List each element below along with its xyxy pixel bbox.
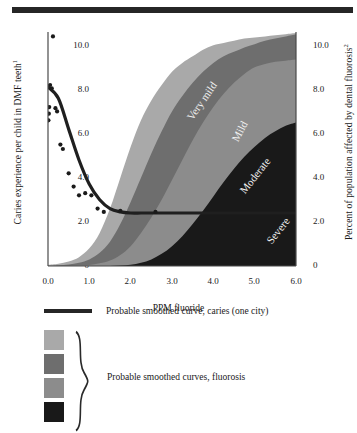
legend-swatch-severe xyxy=(44,402,64,422)
scatter-point xyxy=(118,209,122,213)
scatter-point xyxy=(96,207,100,211)
legend-label-fluorosis: Probable smoothed curves, fluorosis xyxy=(107,372,245,382)
legend-brace xyxy=(72,329,94,433)
caries-line-swatch xyxy=(44,309,92,313)
scatter-point xyxy=(51,34,55,38)
scatter-point xyxy=(77,193,81,197)
scatter-point xyxy=(58,142,62,146)
chart-area: Caries experience per child in DMF teeth… xyxy=(0,18,357,280)
scatter-point xyxy=(89,193,93,197)
legend-swatch-moderate xyxy=(44,378,64,398)
scatter-point xyxy=(55,109,59,113)
plot-canvas: Very mild Mild Moderate Severe xyxy=(0,18,357,280)
top-rule xyxy=(12,7,353,13)
legend-row-caries: Probable smoothed curve, caries (one cit… xyxy=(44,306,269,316)
scatter-point xyxy=(153,210,157,214)
scatter-point xyxy=(50,86,54,90)
scatter-point xyxy=(67,171,71,175)
scatter-point xyxy=(102,210,106,214)
legend-swatch-mild xyxy=(44,354,64,374)
scatter-point xyxy=(83,191,87,195)
legend-swatch-very-mild xyxy=(44,330,64,350)
scatter-point xyxy=(61,147,65,151)
legend-label-caries: Probable smoothed curve, caries (one cit… xyxy=(106,306,269,316)
scatter-point xyxy=(72,184,76,188)
scatter-point xyxy=(47,112,51,116)
